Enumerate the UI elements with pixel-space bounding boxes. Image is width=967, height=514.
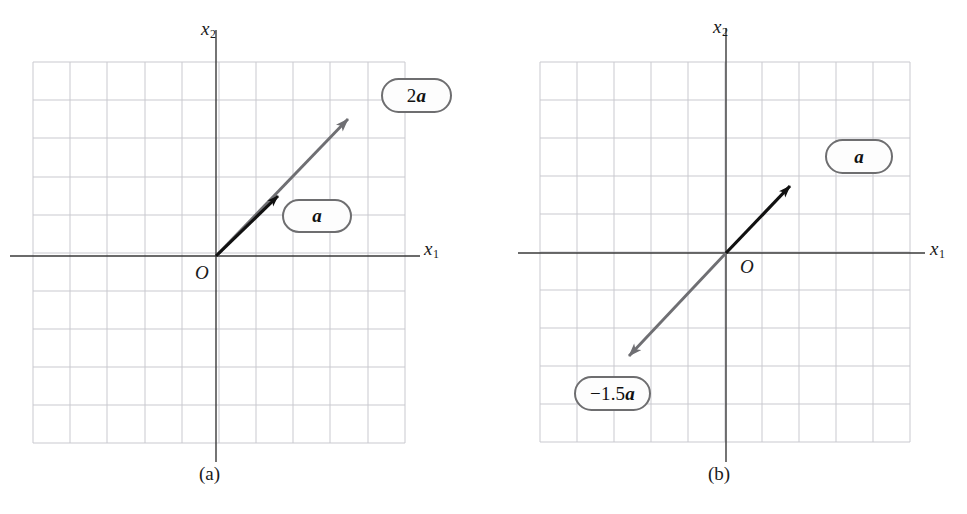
panel-b-canvas xyxy=(484,0,967,514)
vector-label-a: a xyxy=(825,139,893,174)
vector-scalar-multiplication-figure: x2 x1 O 2a a (a) xyxy=(0,0,967,514)
vector-a-shaft xyxy=(726,186,790,253)
origin-label-panel-a: O xyxy=(195,262,209,284)
vector-label-2a: 2a xyxy=(381,78,452,113)
x2-axis-label: x2 xyxy=(201,18,216,42)
vector-negative-1-5a-shaft xyxy=(629,253,726,356)
x1-axis-label: x1 xyxy=(930,238,945,262)
x1-axis-label: x1 xyxy=(424,238,439,262)
panel-b: x2 x1 O a −1.5a (b) xyxy=(484,0,967,514)
panel-b-caption: (b) xyxy=(708,463,730,485)
vector-a-shaft xyxy=(216,196,278,256)
axes-panel-a xyxy=(10,30,420,462)
panel-a: x2 x1 O 2a a (a) xyxy=(0,0,484,514)
panel-a-caption: (a) xyxy=(199,463,220,485)
vector-label-a: a xyxy=(282,199,352,233)
x2-axis-label: x2 xyxy=(713,16,728,40)
vector-label-negative-1-5a: −1.5a xyxy=(574,376,651,411)
origin-label-panel-b: O xyxy=(740,256,754,278)
